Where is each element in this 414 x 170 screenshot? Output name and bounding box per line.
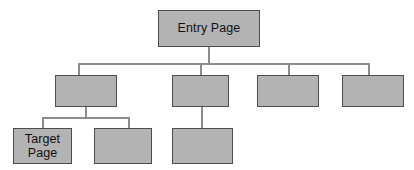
- node-level2-node-1[interactable]: [55, 75, 117, 107]
- node-label-target-page: Target Page: [22, 132, 63, 161]
- node-level3-node-2[interactable]: [94, 128, 152, 164]
- node-level2-node-3[interactable]: [257, 75, 319, 107]
- node-target-page[interactable]: Target Page: [13, 128, 72, 164]
- connector-level2-node-2-to-level3-node-3: [201, 107, 203, 129]
- connector-level3-trunk: [42, 117, 128, 119]
- site-map-diagram: Entry PageTarget Page: [0, 0, 414, 170]
- node-level2-node-4[interactable]: [342, 75, 404, 107]
- node-label-entry-page: Entry Page: [175, 21, 244, 35]
- connector-branch-to-level2-node-4: [368, 63, 370, 75]
- node-level3-node-3[interactable]: [172, 128, 233, 164]
- connector-entry-stem-down: [208, 47, 210, 64]
- node-level2-node-2[interactable]: [172, 75, 229, 107]
- connector-branch-to-level2-node-2: [200, 63, 202, 75]
- connector-branch-to-level2-node-3: [288, 63, 290, 75]
- connector-level2-trunk: [78, 63, 368, 65]
- node-entry-page[interactable]: Entry Page: [158, 10, 260, 47]
- connector-branch-to-level2-node-1: [78, 63, 80, 75]
